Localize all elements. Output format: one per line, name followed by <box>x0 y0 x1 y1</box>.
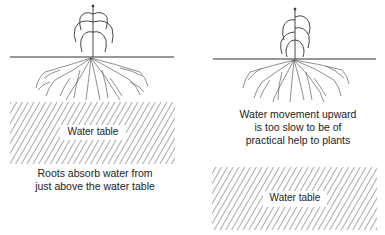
right-caption-line-2: is too slow to be of <box>228 121 368 134</box>
right-roots-icon <box>243 60 349 102</box>
left-water-table-label: Water table <box>60 125 126 140</box>
left-panel <box>10 5 175 164</box>
right-plant-icon <box>281 8 310 59</box>
left-caption-line-2: just above the water table <box>30 180 160 193</box>
right-caption-line-3: practical help to plants <box>228 134 368 147</box>
right-caption-line-1: Water movement upward <box>228 108 368 121</box>
right-water-table-label: Water table <box>263 191 327 207</box>
left-roots-icon <box>36 58 148 100</box>
right-caption: Water movement upward is too slow to be … <box>228 108 368 147</box>
left-caption: Roots absorb water from just above the w… <box>30 167 160 193</box>
left-caption-line-1: Roots absorb water from <box>30 167 160 180</box>
left-plant-icon <box>74 5 113 57</box>
